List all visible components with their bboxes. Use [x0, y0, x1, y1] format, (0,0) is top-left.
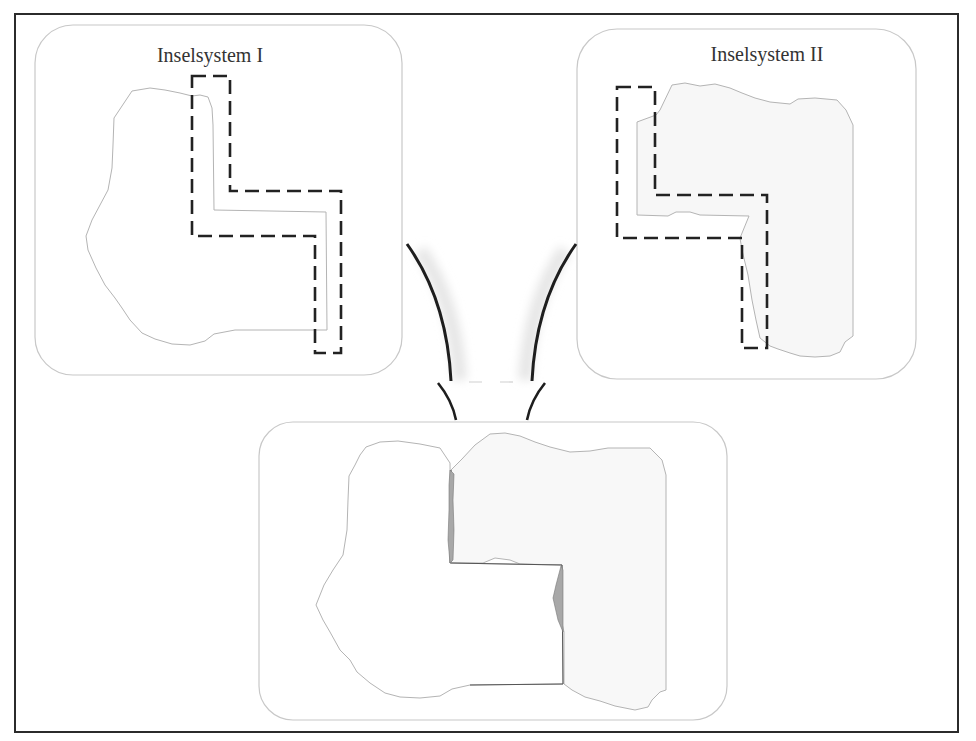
- panel-merged-result: [259, 422, 727, 720]
- panel-title: Inselsystem I: [157, 44, 263, 67]
- panel-inselsystem-1: Inselsystem I: [35, 25, 402, 375]
- merge-arrows: [407, 244, 576, 420]
- diagram-canvas: Inselsystem I Inselsystem II: [0, 0, 976, 741]
- panel-title: Inselsystem II: [711, 43, 824, 66]
- panel-inselsystem-2: Inselsystem II: [577, 29, 916, 379]
- overlap-region-1: [448, 470, 454, 563]
